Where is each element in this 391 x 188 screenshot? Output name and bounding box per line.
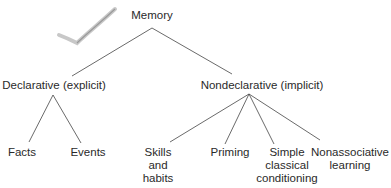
node-line: learning — [311, 159, 389, 172]
node-facts: Facts — [8, 146, 36, 159]
node-priming: Priming — [211, 146, 250, 159]
checkmark-icon — [55, 5, 125, 50]
node-skills-and-habits: Skills and habits — [143, 146, 174, 185]
node-nonassociative-learning: Nonassociative learning — [311, 146, 389, 172]
node-line: Simple — [256, 146, 317, 159]
node-events: Events — [70, 146, 105, 159]
node-line: conditioning — [256, 172, 317, 185]
node-declarative: Declarative (explicit) — [2, 79, 106, 92]
node-line: and — [143, 159, 174, 172]
node-memory: Memory — [131, 9, 173, 22]
node-line: Priming — [211, 146, 250, 159]
node-line: classical — [256, 159, 317, 172]
node-simple-classical-conditioning: Simple classical conditioning — [256, 146, 317, 185]
node-line: Nonassociative — [311, 146, 389, 159]
node-line: habits — [143, 172, 174, 185]
node-line: Skills — [143, 146, 174, 159]
node-nondeclarative: Nondeclarative (implicit) — [201, 79, 324, 92]
